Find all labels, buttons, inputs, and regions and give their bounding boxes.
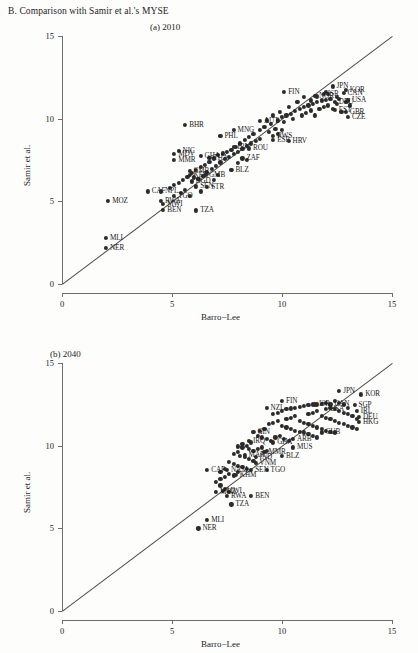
data-point-labeled (357, 420, 361, 424)
data-point-label: KOR (365, 390, 380, 398)
x-axis-line (62, 293, 392, 294)
y-tick-label: 10 (32, 441, 54, 451)
data-point-label: MOZ (112, 197, 128, 205)
data-point-labeled (249, 494, 253, 498)
y-axis-line (62, 36, 63, 284)
data-point (218, 477, 222, 481)
data-point-label: USA (330, 405, 344, 413)
y-tick (58, 36, 62, 37)
panel-caption-a: (a) 2010 (150, 22, 180, 32)
x-tick (392, 620, 393, 624)
y-tick (58, 528, 62, 529)
data-point-label: CUB (326, 428, 340, 436)
data-point (172, 183, 176, 187)
data-point (300, 113, 304, 117)
data-point-label: TGO (178, 192, 192, 200)
data-point-label: ROU (253, 144, 268, 152)
data-point (223, 475, 227, 479)
data-point (282, 120, 286, 124)
panel-2040: (b) 2040 051015051015NERMLITZARWAMWIBENM… (0, 345, 418, 650)
data-point-labeled (205, 468, 209, 472)
scatter-plot-2040: 051015051015NERMLITZARWAMWIBENMOZCAFNAMK… (62, 363, 392, 611)
data-point-labeled (337, 389, 341, 393)
data-point-label: TZA (200, 206, 214, 214)
data-point-labeled (333, 107, 337, 111)
x-tick (62, 293, 63, 297)
data-point-label: RWS (277, 132, 292, 140)
data-point-labeled (357, 415, 361, 419)
data-point-label: KHM (240, 471, 256, 479)
data-point (260, 445, 264, 449)
data-point-labeled (196, 526, 200, 530)
data-point (278, 110, 282, 114)
data-point-label: MNG (238, 126, 254, 134)
data-point (289, 112, 293, 116)
x-tick-label: 10 (271, 299, 293, 309)
data-point-label: BLZ (286, 452, 299, 460)
data-point-label: JPN (343, 387, 355, 395)
y-tick (58, 363, 62, 364)
data-point-label: MLI (211, 516, 224, 524)
data-point-labeled (271, 138, 275, 142)
data-point-labeled (172, 152, 176, 156)
data-point (291, 117, 295, 121)
data-point (295, 100, 299, 104)
data-point-labeled (194, 208, 198, 212)
data-point-label: CZE (352, 113, 365, 121)
data-point-label: MLI (110, 234, 123, 242)
data-point (313, 113, 317, 117)
data-point-label: BEN (255, 492, 269, 500)
data-point (232, 452, 236, 456)
data-point (350, 414, 354, 418)
x-axis-title-b: Barro−Lee (201, 639, 240, 649)
x-tick-label: 5 (161, 299, 183, 309)
y-tick-label: 5 (32, 196, 54, 206)
data-point (232, 152, 236, 156)
data-point-labeled (104, 236, 108, 240)
data-point (218, 483, 222, 487)
data-point-labeled (342, 91, 346, 95)
data-point (254, 139, 258, 143)
data-point-label: BHR (189, 121, 203, 129)
data-point-label: CAF (211, 466, 225, 474)
x-axis-line (62, 620, 392, 621)
data-point (273, 126, 277, 130)
y-tick (58, 446, 62, 447)
y-tick-label: 0 (32, 279, 54, 289)
data-point-labeled (161, 208, 165, 212)
y-tick-label: 15 (32, 31, 54, 41)
data-point-labeled (291, 437, 295, 441)
data-point (267, 130, 271, 134)
data-point-labeled (183, 123, 187, 127)
data-point-labeled (199, 154, 203, 158)
x-tick-label: 10 (271, 626, 293, 636)
y-tick-label: 5 (32, 523, 54, 533)
data-point-label: IRQ (253, 437, 265, 445)
data-point-label: NER (202, 524, 216, 532)
data-point-label: HRV (293, 137, 307, 145)
data-point-label: STR (211, 183, 224, 191)
data-point-label: NOR (319, 92, 334, 100)
data-point-label: NZL (271, 404, 285, 412)
x-tick (282, 620, 283, 624)
figure-page: B. Comparison with Samir et al.'s MYSE (… (0, 0, 418, 653)
data-point (181, 178, 185, 182)
data-point (243, 138, 247, 142)
data-point (315, 435, 319, 439)
x-tick (392, 293, 393, 297)
data-point-label: EST (339, 106, 351, 114)
data-point-label: AUT (264, 117, 278, 125)
data-point (262, 125, 266, 129)
data-point-label: GIN (257, 428, 269, 436)
data-point (207, 160, 211, 164)
data-point-label: ZAF (246, 154, 259, 162)
x-tick (282, 293, 283, 297)
data-point-labeled (205, 518, 209, 522)
y-tick-label: 15 (32, 358, 54, 368)
data-point-label: FIN (288, 88, 299, 96)
data-point (236, 161, 240, 165)
data-point-labeled (190, 179, 194, 183)
y-axis-title-a: Samir et al. (22, 145, 32, 186)
data-point-labeled (194, 184, 198, 188)
data-point-labeled (353, 403, 357, 407)
